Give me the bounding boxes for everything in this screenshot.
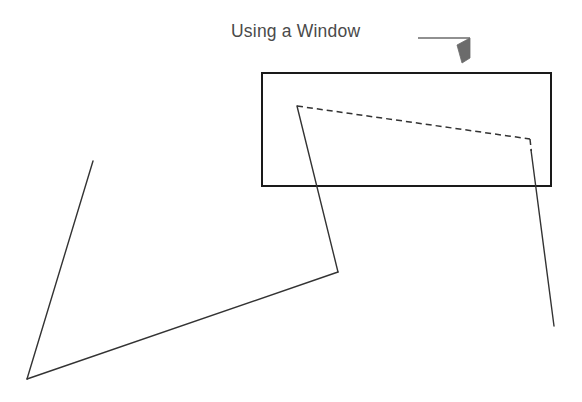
highlighted-top-edge xyxy=(297,106,530,139)
arrow-head-icon xyxy=(457,38,470,63)
left-upward-edge xyxy=(27,161,93,379)
bottom-long-edge xyxy=(27,272,338,379)
highlighted-right-stub xyxy=(530,139,531,151)
left-slanted-edge xyxy=(297,106,338,272)
figure-canvas: Using a Window xyxy=(0,0,582,402)
selection-window-rectangle[interactable] xyxy=(262,73,551,186)
callout-label: Using a Window xyxy=(231,20,360,42)
technical-drawing-figure xyxy=(0,0,582,402)
